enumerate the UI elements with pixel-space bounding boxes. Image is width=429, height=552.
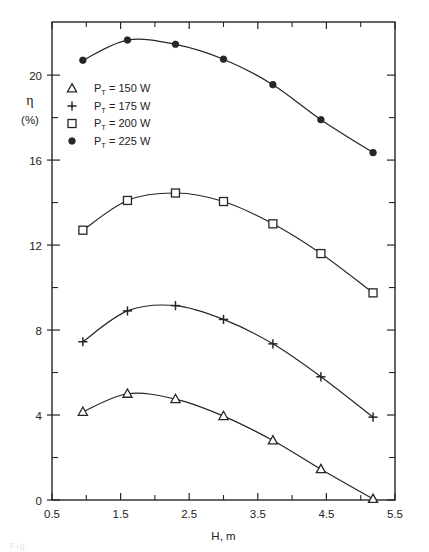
- y-axis-tick-labels: 048121620: [29, 70, 42, 507]
- data-point-filled-circle: [270, 81, 277, 88]
- data-point-square: [171, 189, 179, 197]
- data-point-triangle: [78, 407, 87, 415]
- data-point-filled-circle: [318, 116, 325, 123]
- series-line: [83, 193, 373, 293]
- data-point-square: [220, 198, 228, 206]
- series-triangle: [78, 389, 377, 502]
- y-tick-label: 8: [36, 325, 42, 337]
- data-point-triangle: [219, 411, 228, 419]
- x-axis-title: H, m: [211, 530, 235, 542]
- data-point-filled-circle: [370, 149, 377, 156]
- caption-fragment: Fig.: [10, 541, 29, 551]
- data-point-square: [123, 196, 131, 204]
- data-point-triangle: [316, 464, 325, 472]
- x-tick-label: 0.5: [44, 508, 60, 520]
- y-tick-label: 0: [36, 495, 42, 507]
- data-point-square: [269, 220, 277, 228]
- series-line: [83, 393, 373, 499]
- y-tick-label: 4: [36, 410, 43, 422]
- x-tick-label: 5.5: [387, 508, 403, 520]
- data-point-square: [317, 250, 325, 258]
- x-axis-tick-labels: 0.51.52.53.54.55.5: [44, 508, 403, 520]
- x-tick-label: 1.5: [113, 508, 129, 520]
- y-tick-label: 20: [29, 70, 42, 82]
- efficiency-vs-head-chart: 0.51.52.53.54.55.5 048121620 PT = 150 WP…: [0, 0, 429, 552]
- y-axis-unit: (%): [21, 114, 39, 126]
- figure-panel: 0.51.52.53.54.55.5 048121620 PT = 150 WP…: [0, 0, 429, 552]
- series-plus: [78, 301, 377, 422]
- y-tick-label: 16: [29, 155, 42, 167]
- legend-marker-filled-circle: [69, 138, 76, 145]
- data-point-filled-circle: [172, 41, 179, 48]
- legend-label: PT = 200 W: [94, 117, 151, 132]
- y-axis-title: η: [26, 93, 33, 108]
- series-square: [79, 189, 377, 297]
- data-point-square: [79, 226, 87, 234]
- data-point-square: [369, 289, 377, 297]
- x-tick-label: 2.5: [181, 508, 197, 520]
- legend-marker-square: [68, 120, 76, 128]
- data-point-triangle: [368, 494, 377, 502]
- legend-marker-triangle: [67, 84, 76, 92]
- x-tick-label: 3.5: [250, 508, 266, 520]
- chart-legend: PT = 150 WPT = 175 WPT = 200 WPT = 225 W: [67, 82, 150, 150]
- legend-label: PT = 225 W: [94, 135, 151, 150]
- legend-label: PT = 150 W: [94, 82, 151, 97]
- data-point-filled-circle: [80, 57, 87, 64]
- data-point-filled-circle: [220, 56, 227, 63]
- data-point-filled-circle: [124, 37, 131, 44]
- data-point-triangle: [268, 436, 277, 444]
- series-line: [83, 305, 373, 417]
- x-tick-label: 4.5: [318, 508, 334, 520]
- legend-label: PT = 175 W: [94, 100, 151, 115]
- y-tick-label: 12: [29, 240, 42, 252]
